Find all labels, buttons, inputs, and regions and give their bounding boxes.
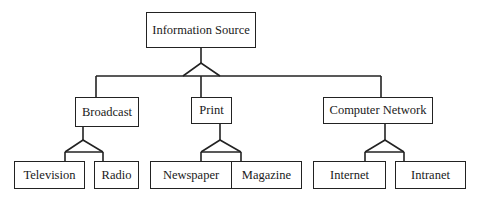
node-intranet: Intranet [395, 161, 466, 189]
node-print: Print [191, 97, 232, 124]
node-information-source: Information Source [146, 12, 256, 48]
node-computer-network: Computer Network [323, 97, 433, 124]
node-broadcast: Broadcast [75, 97, 139, 127]
node-television: Television [14, 161, 85, 189]
node-internet: Internet [313, 161, 386, 189]
node-radio: Radio [94, 161, 139, 189]
node-magazine: Magazine [231, 161, 302, 189]
node-newspaper: Newspaper [150, 161, 232, 189]
